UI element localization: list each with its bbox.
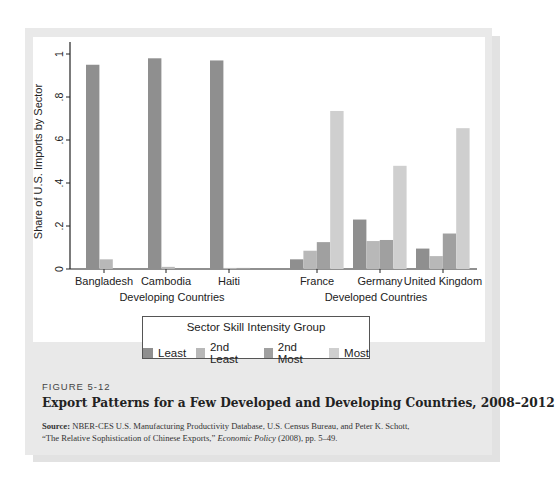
axis-labels: Share of U.S. Imports by SectorBanglades… bbox=[32, 84, 482, 303]
legend-label: Least bbox=[158, 347, 186, 359]
x-tick-label: Haiti bbox=[218, 275, 240, 287]
bar-2nd-most bbox=[380, 240, 393, 269]
legend-swatch bbox=[264, 348, 273, 358]
figure-number: FIGURE 5-12 bbox=[42, 381, 111, 392]
y-tick-label: .2 bbox=[53, 221, 65, 230]
bar-most bbox=[456, 128, 469, 269]
y-tick-label: 1 bbox=[53, 51, 65, 57]
y-tick-label: .6 bbox=[53, 135, 65, 144]
legend-items: Least2nd Least2nd MostMost bbox=[143, 341, 369, 365]
bar-2nd-least bbox=[161, 267, 174, 269]
bar-least bbox=[353, 220, 366, 269]
source-line2-pre: “The Relative Sophistication of Chinese … bbox=[42, 433, 217, 443]
y-tick-label: .4 bbox=[53, 178, 65, 187]
x-tick-label: Cambodia bbox=[141, 275, 192, 287]
bar-2nd-least bbox=[99, 259, 112, 269]
bar-2nd-least bbox=[303, 251, 316, 269]
bar-least bbox=[290, 259, 303, 269]
x-tick-label: Germany bbox=[357, 275, 403, 287]
legend-label: 2nd Least bbox=[210, 341, 254, 365]
group-label: Developing Countries bbox=[119, 291, 225, 303]
legend-label: Most bbox=[344, 347, 369, 359]
bar-2nd-least bbox=[223, 268, 236, 269]
legend-label: 2nd Most bbox=[278, 341, 319, 365]
y-tick-label: 0 bbox=[53, 266, 65, 272]
legend-swatch bbox=[196, 348, 205, 358]
y-axis-label: Share of U.S. Imports by Sector bbox=[32, 84, 44, 240]
figure-source: Source: NBER-CES U.S. Manufacturing Prod… bbox=[42, 420, 482, 444]
bar-most bbox=[330, 111, 343, 269]
legend-item: Least bbox=[143, 341, 186, 365]
axes: 0.2.4.6.81 bbox=[53, 42, 477, 273]
bar-least bbox=[148, 58, 161, 269]
x-tick-label: United Kingdom bbox=[404, 275, 482, 287]
source-line1: NBER-CES U.S. Manufacturing Productivity… bbox=[72, 421, 409, 431]
source-journal: Economic Policy bbox=[217, 433, 275, 443]
legend-item: 2nd Least bbox=[196, 341, 254, 365]
legend-swatch bbox=[329, 348, 339, 358]
legend-swatch bbox=[143, 348, 153, 358]
legend: Sector Skill Intensity Group Least2nd Le… bbox=[142, 316, 370, 359]
bar-2nd-most bbox=[237, 268, 250, 269]
bar-most bbox=[393, 166, 406, 269]
y-tick-label: .8 bbox=[53, 92, 65, 101]
group-label: Developed Countries bbox=[325, 291, 428, 303]
bar-chart: 0.2.4.6.81 Share of U.S. Imports by Sect… bbox=[0, 0, 522, 320]
source-label: Source: bbox=[42, 421, 70, 431]
bars bbox=[86, 58, 470, 269]
bar-least bbox=[416, 249, 429, 269]
legend-title: Sector Skill Intensity Group bbox=[143, 321, 369, 333]
bar-least bbox=[210, 60, 223, 269]
bar-2nd-most bbox=[443, 234, 456, 269]
x-tick-label: Bangladesh bbox=[75, 275, 133, 287]
bar-2nd-least bbox=[366, 241, 379, 269]
figure-title: Export Patterns for a Few Developed and … bbox=[42, 396, 555, 410]
source-line2-post: (2008), pp. 5–49. bbox=[276, 433, 338, 443]
bar-least bbox=[86, 65, 99, 269]
x-tick-label: France bbox=[300, 275, 334, 287]
bar-2nd-least bbox=[429, 256, 442, 269]
legend-item: Most bbox=[329, 341, 369, 365]
bar-2nd-most bbox=[317, 242, 330, 269]
legend-item: 2nd Most bbox=[264, 341, 319, 365]
